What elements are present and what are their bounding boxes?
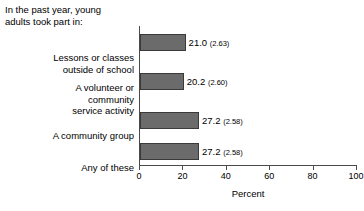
x-tick-label-5: 100 [348, 171, 363, 182]
x-tick-3 [269, 166, 270, 170]
x-tick-5 [356, 166, 357, 170]
bar-value-2: 27.2 (2.58) [202, 115, 243, 127]
x-tick-2 [226, 166, 227, 170]
x-tick-1 [182, 166, 183, 170]
x-tick-label-4: 80 [308, 171, 318, 182]
x-tick-label-1: 20 [177, 171, 187, 182]
bar-value-se-3: (2.58) [223, 148, 243, 157]
x-tick-label-2: 40 [221, 171, 231, 182]
x-axis-line [139, 165, 357, 166]
bar-value-number-3: 27.2 [202, 146, 221, 157]
bar-1[interactable] [140, 73, 184, 90]
x-axis-title: Percent [139, 188, 357, 199]
bar-chart: In the past year, young adults took part… [0, 0, 364, 211]
bar-value-0: 21.0 (2.63) [189, 37, 230, 49]
bar-value-se-2: (2.58) [223, 117, 243, 126]
bar-value-se-0: (2.63) [210, 39, 230, 48]
bar-3[interactable] [140, 143, 199, 160]
bar-value-se-1: (2.60) [208, 78, 228, 87]
x-tick-label-3: 60 [264, 171, 274, 182]
chart-title: In the past year, young adults took part… [5, 4, 145, 28]
category-label-1: A volunteer or community service activit… [2, 82, 134, 117]
category-label-0: Lessons or classes outside of school [2, 52, 134, 75]
x-tick-4 [313, 166, 314, 170]
category-axis-labels: Lessons or classes outside of school A v… [0, 26, 134, 165]
x-tick-label-0: 0 [136, 171, 141, 182]
bar-value-number-1: 20.2 [187, 76, 206, 87]
bar-value-number-0: 21.0 [189, 37, 208, 48]
bar-value-number-2: 27.2 [202, 115, 221, 126]
bar-0[interactable] [140, 34, 186, 51]
bar-value-1: 20.2 (2.60) [187, 76, 228, 88]
plot-area: 0 20 40 60 80 100 21.0 (2.63) 20.2 (2.60… [139, 26, 356, 165]
category-label-2: A community group [2, 130, 134, 142]
bar-2[interactable] [140, 112, 199, 129]
x-tick-0 [139, 166, 140, 170]
category-label-3: Any of these [2, 162, 134, 174]
bar-value-3: 27.2 (2.58) [202, 146, 243, 158]
